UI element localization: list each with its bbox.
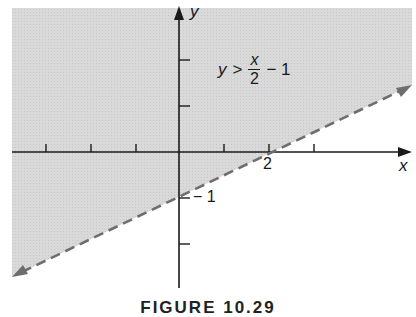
inequality-constant: − 1 <box>266 60 290 80</box>
x-tick-label-2: 2 <box>263 155 272 173</box>
inequality-fraction: x 2 <box>248 52 260 87</box>
fraction-numerator: x <box>248 52 260 70</box>
y-tick-label-neg1: − 1 <box>193 188 216 206</box>
fraction-denominator: 2 <box>250 70 259 87</box>
inequality-operator: > <box>233 60 243 80</box>
shaded-region <box>12 8 412 277</box>
figure-caption: FIGURE 10.29 <box>0 298 416 317</box>
x-axis-label: x <box>399 156 408 176</box>
inequality-lhs: y <box>218 60 227 80</box>
y-axis-label: y <box>190 2 199 22</box>
inequality-label: y > x 2 − 1 <box>218 52 291 87</box>
